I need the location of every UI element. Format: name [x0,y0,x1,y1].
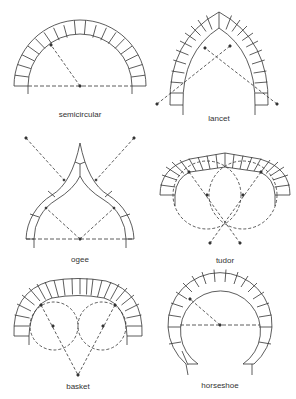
basket-arch [14,278,142,376]
tudor-arch [160,153,290,244]
ogee-arch [25,137,135,248]
horseshoe-arch [168,270,272,376]
semicircular-arch [14,20,146,94]
ogee-label: ogee [71,255,89,264]
horseshoe-label: horseshoe [201,381,238,390]
lancet-arch [156,12,278,115]
semicircular-label: semicircular [59,110,102,119]
tudor-label: tudor [216,256,234,265]
arch-diagram [0,0,296,399]
lancet-label: lancet [208,114,229,123]
basket-label: basket [66,382,90,391]
